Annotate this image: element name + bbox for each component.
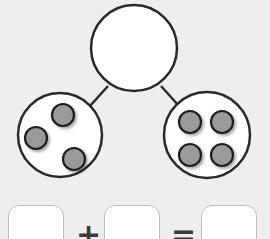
part-circle-left[interactable]: [18, 93, 102, 177]
equals-sign: =: [171, 220, 196, 239]
equation-box-sum[interactable]: [201, 205, 257, 239]
whole-circle[interactable]: [91, 5, 177, 91]
number-bond-diagram: [0, 0, 270, 239]
connector-left: [90, 86, 108, 106]
connector-right: [161, 86, 179, 106]
plus-sign: +: [76, 220, 101, 239]
equation-box-addend-1[interactable]: [8, 205, 64, 239]
equation-box-addend-2[interactable]: [104, 205, 160, 239]
part-circle-right[interactable]: [164, 92, 250, 178]
